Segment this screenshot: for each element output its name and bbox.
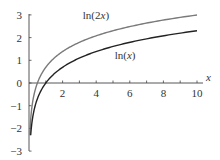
curve-labels: ln(2x)ln(x)	[83, 9, 136, 62]
x-axis: 246810 x	[29, 71, 211, 99]
y-ticks: −3−2−10123	[10, 9, 31, 157]
x-tick-label: 2	[60, 87, 66, 99]
y-tick-label: 0	[17, 77, 23, 89]
y-tick-label: −3	[10, 145, 22, 157]
x-axis-label: x	[205, 71, 211, 83]
x-tick-label: 10	[192, 87, 204, 99]
y-tick-label: 1	[17, 54, 23, 66]
line-chart: −3−2−10123 246810 x ln(2x)ln(x)	[0, 0, 220, 160]
y-tick-label: −2	[10, 122, 22, 134]
y-tick-label: 2	[17, 32, 23, 44]
x-tick-label: 8	[161, 87, 167, 99]
series-line-ln2x	[30, 15, 197, 135]
y-tick-label: −1	[10, 100, 22, 112]
curve-label-lnx: ln(x)	[115, 49, 136, 62]
series-group	[30, 15, 197, 135]
x-tick-label: 4	[93, 87, 99, 99]
y-axis: −3−2−10123	[10, 9, 31, 157]
y-tick-label: 3	[17, 9, 23, 21]
curve-label-ln2x: ln(2x)	[83, 9, 110, 22]
x-tick-label: 6	[127, 87, 133, 99]
